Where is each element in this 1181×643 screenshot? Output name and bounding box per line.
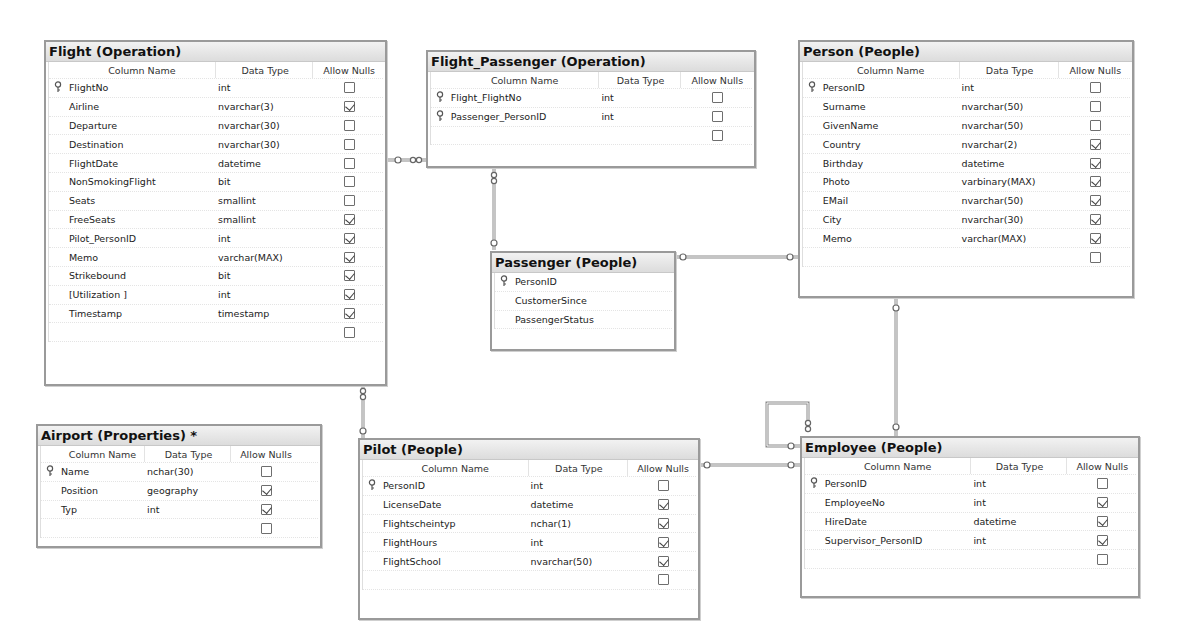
table-title[interactable]: Pilot (People) xyxy=(360,440,698,460)
column-name-cell[interactable]: FreeSeats xyxy=(67,214,216,225)
checkbox-unchecked-icon[interactable] xyxy=(344,158,355,169)
table-row[interactable] xyxy=(803,248,1130,267)
checkbox-unchecked-icon[interactable] xyxy=(1090,82,1101,93)
table-row[interactable]: Birthdaydatetime xyxy=(803,154,1130,173)
column-name-cell[interactable]: PersonID xyxy=(381,480,529,491)
table-flight-passenger[interactable]: Flight_Passenger (Operation) Column Name… xyxy=(426,50,756,168)
table-row[interactable]: PersonIDint xyxy=(803,79,1130,98)
table-row[interactable]: NonSmokingFlightbit xyxy=(49,173,383,192)
data-type-cell[interactable]: datetime xyxy=(960,158,1059,169)
column-name-cell[interactable]: Departure xyxy=(67,120,216,131)
checkbox-unchecked-icon[interactable] xyxy=(344,139,355,150)
table-row[interactable] xyxy=(49,323,383,342)
data-type-cell[interactable]: timestamp xyxy=(216,308,313,319)
table-row[interactable]: GivenNamenvarchar(50) xyxy=(803,117,1130,136)
table-title[interactable]: Employee (People) xyxy=(802,438,1138,458)
table-title[interactable]: Flight (Operation) xyxy=(46,42,385,62)
table-row[interactable]: Passenger_PersonIDint xyxy=(431,108,752,127)
data-type-cell[interactable]: int xyxy=(216,289,313,300)
checkbox-checked-icon[interactable] xyxy=(658,537,669,548)
table-row[interactable]: Surnamenvarchar(50) xyxy=(803,98,1130,117)
column-name-cell[interactable]: LicenseDate xyxy=(381,499,529,510)
table-row[interactable]: Flight_FlightNoint xyxy=(431,89,752,108)
column-name-cell[interactable]: Memo xyxy=(821,233,960,244)
data-type-cell[interactable]: int xyxy=(971,497,1066,508)
column-name-cell[interactable]: City xyxy=(821,214,960,225)
table-row[interactable]: Citynvarchar(30) xyxy=(803,211,1130,230)
table-person[interactable]: Person (People) Column Name Data Type Al… xyxy=(798,40,1134,298)
checkbox-unchecked-icon[interactable] xyxy=(1090,101,1101,112)
data-type-cell[interactable]: int xyxy=(971,478,1066,489)
checkbox-checked-icon[interactable] xyxy=(344,308,355,319)
column-name-cell[interactable]: PassengerStatus xyxy=(513,314,672,325)
table-row[interactable]: HireDatedatetime xyxy=(805,513,1136,532)
table-row[interactable]: EmployeeNoint xyxy=(805,494,1136,513)
table-row[interactable]: Timestamptimestamp xyxy=(49,305,383,324)
checkbox-checked-icon[interactable] xyxy=(261,485,272,496)
data-type-cell[interactable]: datetime xyxy=(971,516,1066,527)
table-row[interactable]: Seatssmallint xyxy=(49,192,383,211)
table-row[interactable]: FlightNoint xyxy=(49,79,383,98)
data-type-cell[interactable]: int xyxy=(599,92,680,103)
column-name-cell[interactable]: Destination xyxy=(67,139,216,150)
column-name-cell[interactable]: Timestamp xyxy=(67,308,216,319)
column-name-cell[interactable]: Seats xyxy=(67,195,216,206)
checkbox-unchecked-icon[interactable] xyxy=(658,574,669,585)
column-name-cell[interactable]: Passenger_PersonID xyxy=(449,111,600,122)
table-row[interactable] xyxy=(41,519,318,538)
table-row[interactable]: Departurenvarchar(30) xyxy=(49,117,383,136)
table-title[interactable]: Airport (Properties) * xyxy=(38,426,320,446)
checkbox-unchecked-icon[interactable] xyxy=(344,327,355,338)
checkbox-checked-icon[interactable] xyxy=(1090,158,1101,169)
data-type-cell[interactable]: nvarchar(50) xyxy=(960,101,1059,112)
column-name-cell[interactable]: FlightNo xyxy=(67,82,216,93)
column-name-cell[interactable]: EmployeeNo xyxy=(823,497,972,508)
table-row[interactable]: LicenseDatedatetime xyxy=(363,496,696,515)
table-row[interactable]: FlightSchoolnvarchar(50) xyxy=(363,552,696,571)
checkbox-unchecked-icon[interactable] xyxy=(1090,252,1101,263)
table-passenger[interactable]: Passenger (People) PersonIDCustomerSince… xyxy=(490,251,676,351)
data-type-cell[interactable]: datetime xyxy=(216,158,313,169)
table-row[interactable]: Pilot_PersonIDint xyxy=(49,229,383,248)
table-row[interactable]: Destinationnvarchar(30) xyxy=(49,135,383,154)
data-type-cell[interactable]: bit xyxy=(216,176,313,187)
table-row[interactable]: Namenchar(30) xyxy=(41,463,318,482)
table-row[interactable]: Supervisor_PersonIDint xyxy=(805,531,1136,550)
data-type-cell[interactable]: nchar(30) xyxy=(145,466,231,477)
column-name-cell[interactable]: PersonID xyxy=(821,82,960,93)
column-name-cell[interactable]: Airline xyxy=(67,101,216,112)
data-type-cell[interactable]: nvarchar(3) xyxy=(216,101,313,112)
checkbox-checked-icon[interactable] xyxy=(1090,139,1101,150)
checkbox-unchecked-icon[interactable] xyxy=(1097,554,1108,565)
checkbox-checked-icon[interactable] xyxy=(261,504,272,515)
table-row[interactable]: FlightDatedatetime xyxy=(49,154,383,173)
table-row[interactable]: Photovarbinary(MAX) xyxy=(803,173,1130,192)
table-row[interactable]: Typint xyxy=(41,501,318,520)
data-type-cell[interactable]: int xyxy=(960,82,1059,93)
data-type-cell[interactable]: int xyxy=(599,111,680,122)
checkbox-unchecked-icon[interactable] xyxy=(344,195,355,206)
data-type-cell[interactable]: int xyxy=(529,480,629,491)
data-type-cell[interactable]: int xyxy=(529,537,629,548)
column-name-cell[interactable]: [Utilization ] xyxy=(67,289,216,300)
column-name-cell[interactable]: FlightHours xyxy=(381,537,529,548)
table-title[interactable]: Flight_Passenger (Operation) xyxy=(428,52,754,72)
column-name-cell[interactable]: Strikebound xyxy=(67,270,216,281)
column-name-cell[interactable]: GivenName xyxy=(821,120,960,131)
checkbox-checked-icon[interactable] xyxy=(344,233,355,244)
column-name-cell[interactable]: FlightSchool xyxy=(381,556,529,567)
table-row[interactable]: Memovarchar(MAX) xyxy=(49,248,383,267)
checkbox-unchecked-icon[interactable] xyxy=(712,130,723,141)
data-type-cell[interactable]: varchar(MAX) xyxy=(960,233,1059,244)
table-pilot[interactable]: Pilot (People) Column Name Data Type All… xyxy=(358,438,700,620)
checkbox-unchecked-icon[interactable] xyxy=(712,92,723,103)
table-row[interactable]: [Utilization ]int xyxy=(49,286,383,305)
data-type-cell[interactable]: smallint xyxy=(216,195,313,206)
table-row[interactable]: PersonID xyxy=(495,273,672,292)
checkbox-checked-icon[interactable] xyxy=(658,518,669,529)
checkbox-checked-icon[interactable] xyxy=(658,499,669,510)
checkbox-unchecked-icon[interactable] xyxy=(712,111,723,122)
checkbox-checked-icon[interactable] xyxy=(344,289,355,300)
data-type-cell[interactable]: nvarchar(30) xyxy=(216,139,313,150)
table-row[interactable]: EMailnvarchar(50) xyxy=(803,192,1130,211)
